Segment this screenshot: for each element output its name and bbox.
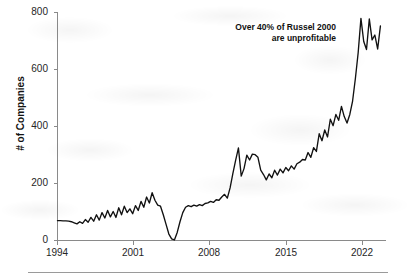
page-separator-rule: [28, 272, 388, 273]
x-tick-label-2022: 2022: [342, 248, 382, 258]
annotation-line-1: Over 40% of Russel 2000: [196, 22, 336, 33]
chart-annotation: Over 40% of Russel 2000 are unprofitable: [196, 22, 336, 44]
x-tick-label-2015: 2015: [266, 248, 306, 258]
y-tick-label-400: 400: [22, 121, 48, 131]
y-tick-label-600: 600: [22, 64, 48, 74]
y-axis-tick-marks: [54, 13, 58, 241]
x-tick-label-2001: 2001: [113, 248, 153, 258]
x-tick-label-1994: 1994: [37, 248, 77, 258]
y-tick-label-0: 0: [22, 235, 48, 245]
data-series-line: [58, 18, 381, 240]
y-tick-label-200: 200: [22, 178, 48, 188]
x-axis-tick-marks: [58, 241, 363, 245]
y-axis-title: # of Companies: [15, 66, 26, 162]
y-tick-label-800: 800: [22, 7, 48, 17]
annotation-line-2: are unprofitable: [196, 33, 336, 44]
x-tick-label-2008: 2008: [189, 248, 229, 258]
line-chart-figure: # of Companies 800 600 400 200 0 1994 20…: [0, 0, 410, 280]
